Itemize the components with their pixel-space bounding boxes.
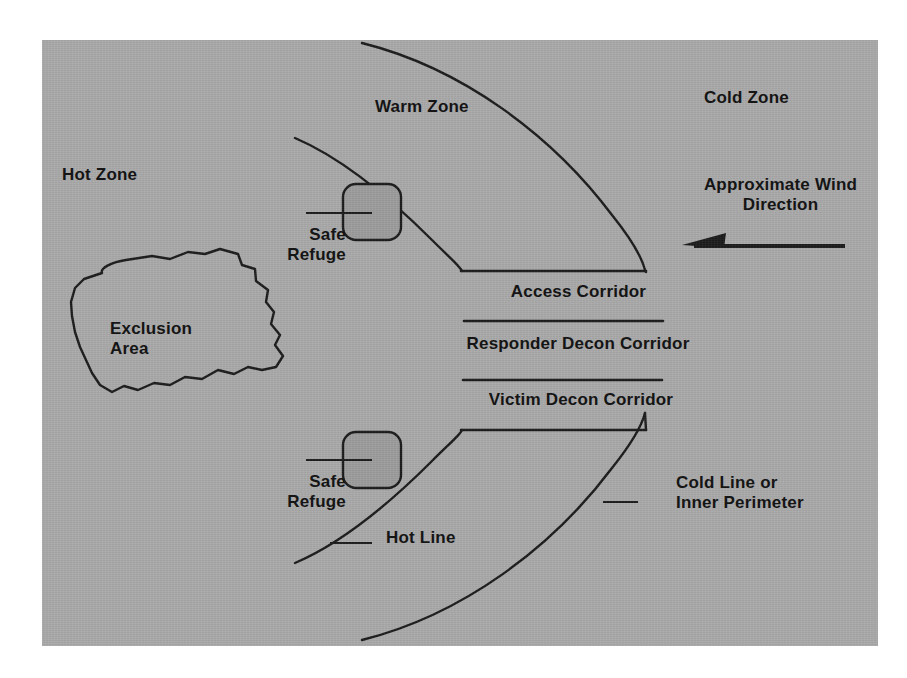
label-responder-decon-corridor: Responder Decon Corridor: [422, 334, 734, 354]
arrow-left-icon-head: [682, 233, 726, 248]
wind-direction-arrow: [682, 233, 845, 248]
cold-line-arc-upper: [362, 43, 645, 270]
cold-line-drop-lower: [645, 413, 646, 430]
hazmat-zone-diagram: Hot Zone Warm Zone Cold Zone Exclusion A…: [0, 0, 907, 678]
label-safe-refuge-lower: Safe Refuge: [274, 472, 346, 512]
label-victim-decon-corridor: Victim Decon Corridor: [442, 390, 720, 410]
label-access-corridor: Access Corridor: [466, 282, 691, 302]
label-warm-zone: Warm Zone: [375, 97, 469, 117]
cold-line-arc-lower: [362, 413, 645, 640]
label-hot-line: Hot Line: [386, 528, 456, 548]
label-cold-zone: Cold Zone: [704, 88, 789, 108]
label-safe-refuge-upper: Safe Refuge: [274, 225, 346, 265]
diagram-panel: Hot Zone Warm Zone Cold Zone Exclusion A…: [42, 40, 878, 646]
label-wind-direction: Approximate Wind Direction: [673, 175, 878, 215]
label-hot-zone: Hot Zone: [62, 165, 137, 185]
label-cold-line: Cold Line or Inner Perimeter: [676, 473, 804, 513]
label-exclusion-area: Exclusion Area: [110, 319, 192, 359]
